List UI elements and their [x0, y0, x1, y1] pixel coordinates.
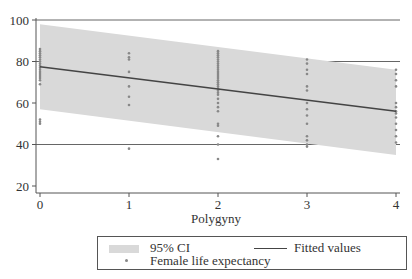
- data-point: [128, 147, 131, 150]
- data-point: [306, 114, 309, 117]
- legend-points-label: Female life expectancy: [150, 254, 271, 268]
- data-point: [217, 143, 220, 146]
- data-point: [306, 62, 309, 65]
- data-point: [217, 125, 220, 128]
- data-point: [306, 73, 309, 76]
- data-point: [395, 69, 398, 72]
- x-axis-ticks: 01234: [37, 193, 400, 212]
- data-point: [306, 85, 309, 88]
- data-point: [306, 108, 309, 111]
- data-point: [39, 83, 42, 86]
- data-point: [128, 52, 131, 55]
- data-point: [39, 122, 42, 125]
- data-point: [128, 104, 131, 107]
- y-tick-label: 80: [16, 54, 29, 69]
- data-point: [395, 141, 398, 144]
- line-swatch-icon: [254, 248, 287, 249]
- y-axis-ticks: 10080604020: [10, 13, 37, 194]
- data-point: [39, 79, 42, 82]
- data-point: [306, 145, 309, 148]
- data-point: [395, 112, 398, 115]
- x-tick-label: 4: [393, 197, 400, 212]
- x-tick-label: 2: [215, 197, 222, 212]
- data-point: [128, 95, 131, 98]
- data-point: [395, 129, 398, 132]
- x-axis-title: Polygyny: [191, 211, 241, 226]
- legend: 95% CI Fitted values Female life expecta…: [97, 236, 407, 270]
- data-point: [306, 58, 309, 61]
- data-point: [128, 71, 131, 74]
- dot-swatch-icon: [125, 259, 128, 262]
- data-point: [395, 116, 398, 119]
- y-tick-label: 60: [16, 96, 29, 111]
- y-tick-label: 20: [16, 179, 29, 194]
- data-point: [217, 158, 220, 161]
- data-point: [217, 135, 220, 138]
- data-point: [306, 139, 309, 142]
- data-point: [395, 106, 398, 109]
- x-tick-label: 1: [126, 197, 133, 212]
- data-point: [306, 135, 309, 138]
- y-tick-label: 100: [10, 13, 30, 28]
- data-point: [217, 102, 220, 105]
- data-point: [306, 69, 309, 72]
- data-point: [395, 122, 398, 125]
- data-point: [128, 58, 131, 61]
- data-point: [217, 93, 220, 96]
- data-point: [217, 98, 220, 101]
- data-point: [128, 85, 131, 88]
- data-point: [306, 122, 309, 125]
- data-point: [217, 106, 220, 109]
- x-tick-label: 0: [37, 197, 44, 212]
- data-point: [217, 110, 220, 113]
- data-point: [306, 89, 309, 92]
- data-point: [395, 135, 398, 138]
- ci-swatch-icon: [109, 245, 139, 253]
- y-tick-label: 40: [16, 137, 29, 152]
- data-point: [395, 85, 398, 88]
- data-point: [395, 73, 398, 76]
- data-point: [395, 102, 398, 105]
- data-point: [306, 102, 309, 105]
- data-point: [395, 79, 398, 82]
- x-tick-label: 3: [304, 197, 311, 212]
- legend-fitted-label: Fitted values: [294, 241, 361, 255]
